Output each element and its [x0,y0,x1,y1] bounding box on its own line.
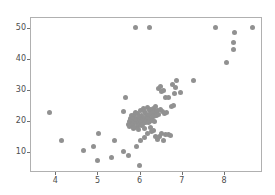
x-axis-tick-mark [97,172,98,175]
x-axis-tick-mark [182,172,183,175]
data-point [174,78,179,83]
data-point [166,95,171,100]
data-point [213,25,218,30]
data-point [231,40,236,45]
data-point [152,119,157,124]
data-point [172,91,177,96]
data-point [134,144,139,149]
data-point [112,138,117,143]
y-axis-tick-label: 50 [6,24,26,32]
data-point [133,25,138,30]
data-point [178,90,183,95]
data-point [47,110,52,115]
data-point [123,95,128,100]
x-axis-tick-mark [224,172,225,175]
data-point [151,128,156,133]
x-axis-tick-label: 6 [130,177,150,185]
data-point [96,131,101,136]
data-point [171,103,176,108]
x-axis-tick-label: 8 [214,177,234,185]
data-point [168,133,173,138]
plot-area [30,17,262,172]
data-point [126,153,131,158]
data-point [121,109,126,114]
data-point [142,126,147,131]
data-point [91,144,96,149]
x-axis-tick-mark [140,172,141,175]
data-point [95,158,100,163]
data-point [136,127,141,132]
data-point [224,60,229,65]
x-axis-tick-label: 4 [45,177,65,185]
data-point [232,30,237,35]
data-point [137,163,142,168]
y-axis-tick-label: 20 [6,117,26,125]
data-point [59,138,64,143]
data-point [191,78,196,83]
data-point [161,88,166,93]
data-point [109,155,114,160]
scatter-plot-figure: 1020304050 45678 [0,0,275,195]
data-point [173,85,178,90]
x-axis-tick-label: 7 [172,177,192,185]
y-axis-tick-label: 40 [6,55,26,63]
data-point [250,25,255,30]
y-axis-tick-label: 30 [6,86,26,94]
data-point [161,138,166,143]
x-axis-tick-mark [55,172,56,175]
x-axis-tick-label: 5 [87,177,107,185]
y-axis-tick-label: 10 [6,148,26,156]
data-point [164,110,169,115]
data-point [231,47,236,52]
data-point [81,148,86,153]
data-point [147,25,152,30]
